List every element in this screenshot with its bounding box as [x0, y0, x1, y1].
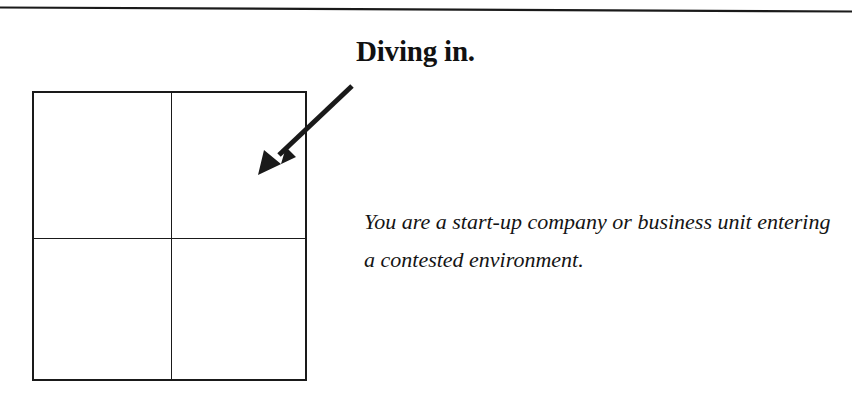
rule-line — [0, 8, 852, 12]
matrix-cell-bottom-right[interactable] — [172, 239, 305, 379]
matrix-cell-top-left[interactable] — [34, 93, 172, 239]
page-title: Diving in. — [356, 36, 475, 66]
slide-canvas: Diving in. You are a start-up company or… — [0, 0, 852, 401]
top-horizontal-rule — [0, 0, 852, 20]
matrix-cell-bottom-left[interactable] — [34, 239, 172, 379]
matrix-cell-top-right[interactable] — [172, 93, 305, 239]
body-paragraph: You are a start-up company or business u… — [364, 203, 834, 279]
two-by-two-matrix — [32, 91, 307, 381]
